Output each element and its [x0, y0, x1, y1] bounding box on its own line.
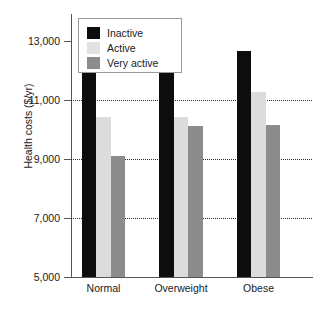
legend-item-active: Active — [87, 41, 136, 54]
bar-normal-very-active — [111, 156, 126, 277]
health-costs-bar-chart: Health costs ($/yr) 5,0007,0009,00011,00… — [0, 0, 322, 317]
chart-legend: InactiveActiveVery active — [78, 18, 182, 73]
bar-overweight-inactive — [159, 70, 174, 277]
legend-swatch-icon — [87, 27, 100, 39]
legend-item-very-active: Very active — [87, 56, 158, 69]
y-axis-tick-label: 7,000 — [8, 212, 60, 224]
bar-normal-active — [96, 117, 111, 277]
bar-obese-inactive — [237, 51, 252, 277]
bar-overweight-very-active — [188, 126, 203, 277]
bar-obese-very-active — [266, 125, 281, 277]
y-axis-title: Health costs ($/yr) — [22, 36, 34, 216]
y-axis-tick-label: 9,000 — [8, 153, 60, 165]
legend-item-inactive: Inactive — [87, 26, 143, 39]
legend-swatch-icon — [87, 42, 100, 54]
x-axis-tick-label: Overweight — [154, 282, 207, 294]
x-axis-tick-label: Obese — [243, 282, 274, 294]
y-axis-tick-label: 5,000 — [8, 271, 60, 283]
gridline — [71, 100, 312, 101]
y-axis-tick-label: 11,000 — [8, 94, 60, 106]
legend-swatch-icon — [87, 57, 100, 69]
bar-overweight-active — [174, 117, 189, 277]
legend-item-label: Inactive — [107, 27, 143, 39]
y-axis-tick-label: 13,000 — [8, 35, 60, 47]
legend-item-label: Very active — [107, 57, 158, 69]
bar-normal-inactive — [82, 57, 97, 277]
legend-item-label: Active — [107, 42, 136, 54]
x-axis-tick-label: Normal — [87, 282, 121, 294]
bar-obese-active — [251, 92, 266, 277]
